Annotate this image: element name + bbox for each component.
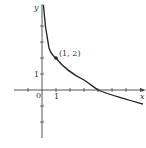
- graph: y x 0 1 1 (1, 2): [0, 0, 146, 148]
- x-tick-label-1: 1: [54, 92, 59, 101]
- point-marker: [54, 56, 58, 60]
- origin-label: 0: [36, 91, 41, 100]
- x-axis-label: x: [140, 92, 145, 101]
- y-axis-label: y: [33, 3, 39, 12]
- point-label: (1, 2): [59, 49, 81, 58]
- y-tick-label-1: 1: [34, 70, 39, 79]
